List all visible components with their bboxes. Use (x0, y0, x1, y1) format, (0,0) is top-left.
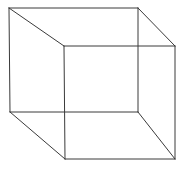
edge-top-right (138, 8, 175, 46)
front-face (64, 46, 175, 159)
front-left-edge (64, 46, 65, 159)
edge-bottom-left (10, 112, 65, 159)
back-left-edge (9, 8, 10, 112)
edge-top-left (9, 8, 64, 46)
necker-cube-diagram (0, 0, 185, 170)
connecting-edges (9, 8, 175, 159)
edge-bottom-right (138, 112, 175, 159)
back-face (9, 8, 138, 112)
